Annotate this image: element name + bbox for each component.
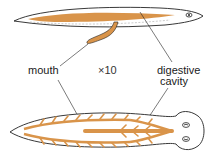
planarian-diagram: mouth ×10 digestive cavity xyxy=(0,0,208,166)
magnification-label: ×10 xyxy=(98,65,117,76)
side-view-worm xyxy=(14,7,203,43)
digestive-label-line2: cavity xyxy=(160,76,188,87)
mouth-leader-top xyxy=(60,44,88,66)
mouth-label: mouth xyxy=(28,65,59,76)
top-view-worm xyxy=(10,112,204,150)
right-eye-icon xyxy=(183,137,190,142)
left-eye-icon xyxy=(183,123,190,128)
